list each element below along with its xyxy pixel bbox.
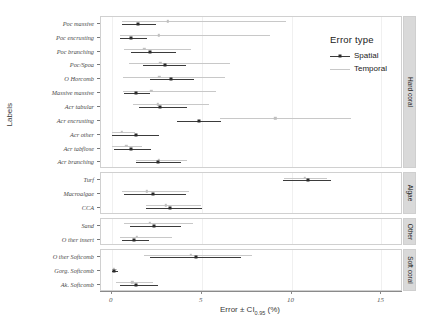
data-point-temporal (150, 89, 152, 91)
chart-root: Labels Hard coralAlgaeOtherSoft coral Po… (0, 0, 448, 324)
data-point-temporal (143, 48, 145, 50)
error-bar-spatial (120, 285, 158, 286)
gridline (202, 173, 203, 213)
y-tick-mark (97, 193, 100, 194)
data-point-temporal (136, 236, 138, 238)
y-tick-label: Poc/Spoa (70, 61, 94, 68)
data-point-temporal (131, 281, 133, 283)
data-point-temporal (148, 222, 150, 224)
y-tick-mark (97, 239, 100, 240)
y-tick-label: Macroalgae (63, 190, 94, 197)
error-bar-spatial (139, 107, 188, 108)
y-tick-mark (97, 120, 100, 121)
y-tick-label: Acr encrusting (57, 116, 94, 123)
data-point-temporal (190, 254, 192, 256)
panel-other (100, 218, 402, 246)
panel-strip-soft-coral: Soft coral (403, 249, 416, 291)
x-axis-title-sub: 0.95 (255, 310, 266, 316)
error-bar-temporal (133, 104, 209, 105)
x-tick-mark (291, 291, 292, 294)
y-tick-label: Sand (81, 221, 94, 228)
error-bar-temporal (124, 223, 192, 224)
y-tick-label: Acr other (70, 130, 94, 137)
y-tick-label: Acr tabflose (63, 144, 94, 151)
panel-algae (100, 172, 402, 214)
gridline (381, 173, 382, 213)
y-tick-mark (97, 134, 100, 135)
panel-soft-coral (100, 249, 402, 291)
error-bar-temporal (144, 255, 252, 256)
y-tick-mark (97, 256, 100, 257)
error-bar-spatial (124, 194, 186, 195)
x-tick-label: 15 (377, 296, 384, 304)
panel-strip-label: Algae (406, 185, 413, 202)
y-tick-mark (97, 37, 100, 38)
data-point-spatial (148, 50, 151, 53)
y-tick-mark (97, 23, 100, 24)
data-point-spatial (169, 206, 172, 209)
data-point-spatial (135, 92, 138, 95)
legend-title: Error type (330, 34, 414, 45)
error-bar-spatial (120, 38, 147, 39)
y-tick-label: O Horcomb (64, 75, 94, 82)
gridline (112, 173, 113, 213)
legend-label-temporal: Temporal (354, 64, 387, 73)
error-bar-temporal (124, 49, 191, 50)
x-axis-title-main: Error ± CI (220, 305, 255, 314)
legend-key-spatial-icon (330, 51, 350, 61)
data-point-temporal (146, 190, 148, 192)
y-tick-label: Poc massive (63, 19, 94, 26)
data-point-spatial (153, 224, 156, 227)
data-point-spatial (112, 270, 115, 273)
y-tick-mark (97, 148, 100, 149)
data-point-spatial (129, 147, 132, 150)
legend-label-spatial: Spatial (354, 51, 378, 60)
y-tick-label: Massive massive (52, 89, 94, 96)
error-bar-temporal (122, 21, 286, 22)
y-tick-mark (97, 64, 100, 65)
x-axis-title-tail: (%) (265, 305, 280, 314)
gridline (112, 17, 113, 167)
y-tick-mark (97, 106, 100, 107)
y-tick-label: Turf (83, 176, 94, 183)
y-tick-label: O ther Softcomb (53, 253, 94, 260)
y-tick-label: CCA (82, 203, 94, 210)
gridline (381, 219, 382, 245)
error-bar-temporal (136, 160, 187, 161)
x-axis-line (100, 291, 402, 292)
y-tick-mark (97, 207, 100, 208)
legend-item-temporal[interactable]: Temporal (330, 62, 414, 75)
data-point-spatial (135, 284, 138, 287)
y-tick-mark (97, 92, 100, 93)
y-tick-mark (97, 51, 100, 52)
error-bar-temporal (122, 191, 189, 192)
y-tick-mark (97, 78, 100, 79)
data-point-temporal (125, 145, 127, 147)
panel-strip-label: Hard coral (406, 77, 413, 107)
error-bar-spatial (114, 149, 152, 150)
y-tick-label: Poc encrusting (56, 33, 94, 40)
y-tick-mark (97, 225, 100, 226)
data-point-temporal (120, 131, 122, 133)
error-bar-temporal (120, 237, 172, 238)
error-bar-temporal (146, 205, 201, 206)
panel-strip-label: Soft coral (406, 256, 413, 283)
y-tick-label: Acr tabular (65, 102, 94, 109)
y-tick-label: Ak. Softcomb (61, 281, 94, 288)
data-point-temporal (165, 204, 167, 206)
x-tick-label: 5 (199, 296, 203, 304)
x-tick-mark (380, 291, 381, 294)
legend: Error type Spatial Temporal (330, 34, 414, 75)
data-point-temporal (157, 34, 159, 36)
data-point-temporal (159, 62, 161, 64)
data-point-spatial (163, 64, 166, 67)
error-bar-temporal (123, 77, 225, 78)
x-axis-title: Error ± CI0.95 (%) (100, 305, 400, 316)
data-point-spatial (152, 193, 155, 196)
data-point-spatial (197, 119, 200, 122)
gridline (202, 17, 203, 167)
data-point-spatial (136, 22, 139, 25)
legend-item-spatial[interactable]: Spatial (330, 49, 414, 62)
y-tick-label: Gorg. Softcomb (54, 267, 94, 274)
data-point-spatial (156, 161, 159, 164)
